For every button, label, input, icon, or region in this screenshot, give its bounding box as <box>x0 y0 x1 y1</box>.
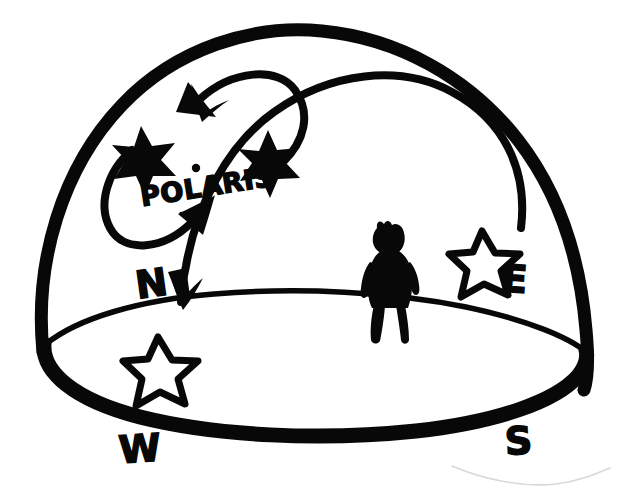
polaris-label-accent-dot <box>192 164 200 172</box>
north-label-group: N <box>133 260 171 308</box>
observer-right-leg <box>396 305 409 344</box>
celestial-dome-figure: POLARIS N E S W <box>0 0 622 504</box>
south-label-group: S <box>504 418 534 463</box>
compass-label-north: N <box>133 260 171 308</box>
outline-star-north-horizon <box>123 337 198 406</box>
counterclockwise-arrow-top <box>200 74 304 162</box>
observer-left-leg <box>371 305 385 344</box>
sky-dome-outline <box>41 30 587 390</box>
observer-torso <box>368 250 413 308</box>
scan-artifact-line <box>452 466 610 485</box>
observer-silhouette <box>361 221 420 344</box>
compass-label-east: E <box>500 256 529 302</box>
observer-head <box>373 221 405 255</box>
compass-label-south: S <box>504 418 534 463</box>
sky-dome-drawing: POLARIS N E S W <box>0 0 622 504</box>
compass-label-west: W <box>117 425 162 472</box>
west-label-group: W <box>117 425 162 472</box>
east-label-group: E <box>500 256 529 302</box>
